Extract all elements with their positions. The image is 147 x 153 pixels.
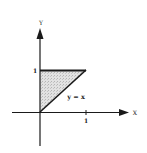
x-axis-label: X bbox=[133, 109, 138, 116]
y-axis-arrow-icon bbox=[37, 28, 44, 39]
region-diagram: Y X 1 1 y = x bbox=[0, 0, 147, 153]
y-tick-label: 1 bbox=[33, 67, 37, 74]
x-axis-arrow-icon bbox=[119, 109, 129, 116]
curve-label: y = x bbox=[66, 93, 85, 101]
x-tick-label: 1 bbox=[84, 117, 88, 124]
y-axis-label: Y bbox=[38, 19, 44, 26]
